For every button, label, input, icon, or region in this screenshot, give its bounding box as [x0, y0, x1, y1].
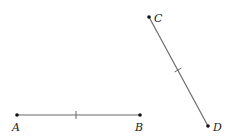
label-d: D	[212, 121, 222, 134]
segment-cd	[149, 17, 208, 126]
label-b: B	[134, 121, 143, 134]
point-b	[138, 113, 142, 117]
label-c: C	[154, 12, 163, 25]
point-d	[206, 124, 210, 128]
label-a: A	[11, 121, 20, 134]
point-a	[15, 113, 19, 117]
point-c	[147, 15, 151, 19]
congruent-segments-diagram: A B C D	[0, 0, 233, 137]
